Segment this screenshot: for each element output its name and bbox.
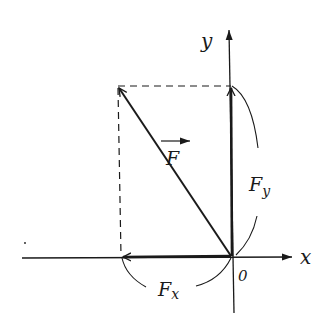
force-diagram: y x 0 F Fy Fx (0, 0, 333, 336)
force-y-label: Fy (248, 173, 271, 199)
x-axis-label: x (300, 245, 311, 269)
force-x-label: Fx (157, 278, 179, 302)
fy-brace-arc-top (232, 86, 258, 148)
force-y-subscript: y (261, 183, 271, 199)
stray-dot (24, 242, 26, 244)
force-component-fy (231, 88, 232, 256)
dashed-projection-vertical (118, 88, 121, 256)
force-component-fx (123, 256, 231, 257)
force-vector-f (119, 88, 231, 256)
force-label: F (165, 147, 180, 169)
fx-brace-arc-left (122, 258, 146, 287)
fx-brace-arc-right (196, 258, 231, 286)
force-x-subscript: x (171, 286, 179, 302)
origin-label: 0 (238, 267, 248, 285)
fy-brace-arc-bottom (236, 216, 257, 255)
y-axis-label: y (200, 29, 213, 53)
